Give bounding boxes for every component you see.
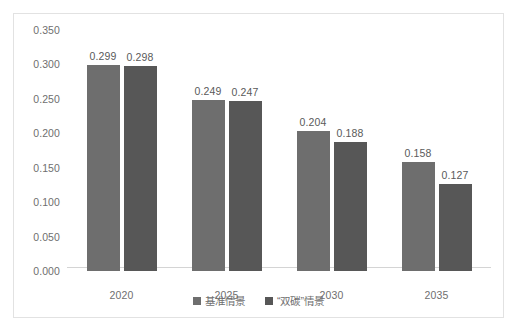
y-axis-tick-label: 0.300 <box>33 58 60 70</box>
y-axis-tick-label: 0.350 <box>33 24 60 36</box>
bar-value-label: 0.299 <box>90 50 117 62</box>
y-axis: 0.3500.3000.2500.2000.1500.1000.0500.000 <box>14 30 66 271</box>
bar[interactable]: 0.247 <box>229 101 262 271</box>
legend-label: “双碳”情景 <box>277 293 324 308</box>
y-axis-tick-label: 0.050 <box>33 231 60 243</box>
bar-value-label: 0.298 <box>127 51 154 63</box>
bar-group: 0.2990.298 <box>69 30 174 271</box>
bar[interactable]: 0.298 <box>124 66 157 271</box>
legend-item[interactable]: “双碳”情景 <box>265 293 324 308</box>
plot-area: 0.2990.29820200.2490.24720250.2040.18820… <box>69 30 489 271</box>
legend-label: 基准情景 <box>205 293 245 308</box>
bar[interactable]: 0.127 <box>439 184 472 271</box>
y-axis-tick-label: 0.100 <box>33 196 60 208</box>
y-axis-tick-label: 0.150 <box>33 162 60 174</box>
y-axis-tick-label: 0.200 <box>33 127 60 139</box>
chart-container: 0.3500.3000.2500.2000.1500.1000.0500.000… <box>13 13 504 318</box>
bar[interactable]: 0.249 <box>192 100 225 271</box>
bar-group: 0.2040.188 <box>279 30 384 271</box>
bar-value-label: 0.158 <box>405 147 432 159</box>
legend-swatch-icon <box>193 297 201 305</box>
bar-value-label: 0.188 <box>337 127 364 139</box>
legend-item[interactable]: 基准情景 <box>193 293 245 308</box>
bar-value-label: 0.204 <box>300 116 327 128</box>
bar[interactable]: 0.299 <box>87 65 120 271</box>
bar-value-label: 0.249 <box>195 85 222 97</box>
bar[interactable]: 0.188 <box>334 142 367 271</box>
y-axis-tick-label: 0.250 <box>33 93 60 105</box>
bar-value-label: 0.127 <box>442 169 469 181</box>
bar-group: 0.2490.247 <box>174 30 279 271</box>
bar-group: 0.1580.127 <box>384 30 489 271</box>
bar-value-label: 0.247 <box>232 86 259 98</box>
legend-swatch-icon <box>265 297 273 305</box>
bar[interactable]: 0.204 <box>297 131 330 271</box>
y-axis-tick-label: 0.000 <box>33 265 60 277</box>
bar[interactable]: 0.158 <box>402 162 435 271</box>
chart-legend: 基准情景“双碳”情景 <box>14 293 503 308</box>
